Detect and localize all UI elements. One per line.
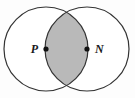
venn-diagram-canvas: P N <box>0 0 135 98</box>
point-p-marker <box>43 46 48 51</box>
point-n-marker <box>84 46 89 51</box>
point-n-label: N <box>94 42 105 56</box>
venn-diagram-figure: P N <box>0 0 135 98</box>
point-p-label: P <box>31 42 39 56</box>
